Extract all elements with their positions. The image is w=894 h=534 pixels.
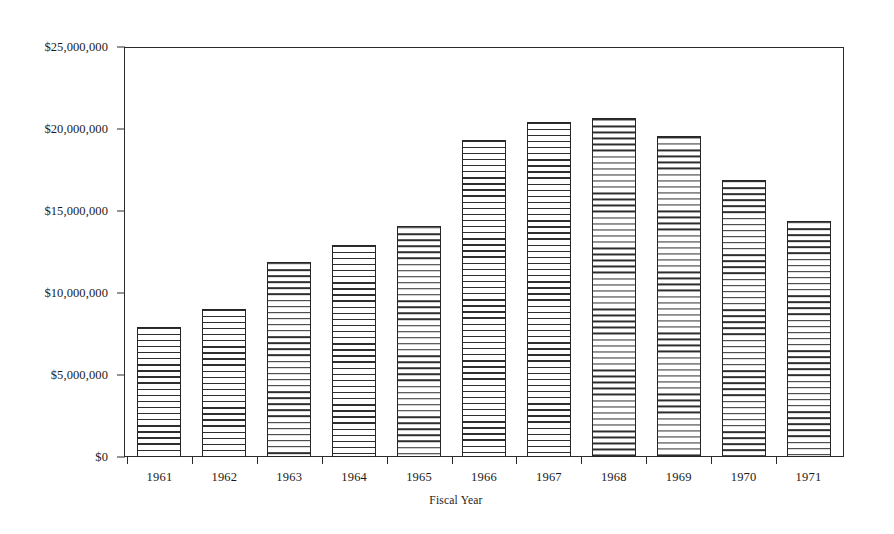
- bar-1966[interactable]: [462, 140, 506, 457]
- bar-slot: [646, 48, 711, 457]
- x-tick-slot: [516, 457, 581, 465]
- x-tick-slot: [776, 457, 841, 465]
- bar-1961[interactable]: [137, 327, 181, 457]
- bar-slot: [127, 48, 192, 457]
- x-axis-tick-label: 1969: [646, 470, 711, 485]
- x-axis-tick-label: 1971: [776, 470, 841, 485]
- x-axis-title-text: Fiscal Year: [429, 494, 482, 506]
- x-axis-tick-mark: [452, 457, 453, 464]
- x-axis-ticks: [125, 457, 843, 465]
- bar-1962[interactable]: [202, 309, 246, 457]
- x-tick-slot: [322, 457, 387, 465]
- bars-layer: [125, 48, 843, 457]
- x-axis-tick-label: 1965: [387, 470, 452, 485]
- bar-slot: [581, 48, 646, 457]
- x-axis-tick-label: 1964: [322, 470, 387, 485]
- bar-1964[interactable]: [332, 245, 376, 457]
- y-axis-tick-label: $10,000,000: [44, 287, 108, 300]
- x-axis-tick-label: 1966: [452, 470, 517, 485]
- y-axis-tick-label: $5,000,000: [51, 369, 108, 382]
- x-axis-tick-label: 1968: [581, 470, 646, 485]
- bar-slot: [516, 48, 581, 457]
- bar-1971[interactable]: [787, 221, 831, 457]
- x-axis-title: Fiscal Year: [0, 494, 894, 506]
- y-axis-tick-label: $25,000,000: [44, 41, 108, 54]
- x-axis-tick-mark: [711, 457, 712, 464]
- x-tick-slot: [127, 457, 192, 465]
- x-tick-slot: [711, 457, 776, 465]
- bar-chart: $25,000,000$20,000,000$15,000,000$10,000…: [0, 0, 894, 534]
- x-axis-tick-mark: [646, 457, 647, 464]
- x-axis-tick-label: 1970: [711, 470, 776, 485]
- x-axis-tick-label: 1967: [516, 470, 581, 485]
- y-axis-tick-label: $0: [95, 451, 108, 464]
- bar-1969[interactable]: [657, 136, 701, 457]
- x-tick-slot: [387, 457, 452, 465]
- x-axis-tick-mark: [257, 457, 258, 464]
- bar-slot: [711, 48, 776, 457]
- bar-1970[interactable]: [722, 180, 766, 457]
- x-axis-labels: 1961196219631964196519661967196819691970…: [125, 470, 843, 485]
- x-tick-slot: [646, 457, 711, 465]
- x-axis-tick-mark: [776, 457, 777, 464]
- bar-slot: [322, 48, 387, 457]
- x-axis-tick-mark: [192, 457, 193, 464]
- x-axis-tick-label: 1962: [192, 470, 257, 485]
- x-axis-tick-label: 1961: [127, 470, 192, 485]
- bar-slot: [452, 48, 517, 457]
- bar-slot: [387, 48, 452, 457]
- x-tick-slot: [452, 457, 517, 465]
- x-tick-slot: [257, 457, 322, 465]
- x-axis-tick-label: 1963: [257, 470, 322, 485]
- y-axis-tick-label: $15,000,000: [44, 205, 108, 218]
- bar-1968[interactable]: [592, 118, 636, 457]
- x-axis-tick-mark: [322, 457, 323, 464]
- x-tick-slot: [192, 457, 257, 465]
- x-tick-slot: [581, 457, 646, 465]
- x-axis-tick-mark: [127, 457, 128, 464]
- x-axis-tick-mark: [387, 457, 388, 464]
- y-axis: $25,000,000$20,000,000$15,000,000$10,000…: [0, 47, 118, 457]
- bar-slot: [192, 48, 257, 457]
- bar-slot: [776, 48, 841, 457]
- bar-slot: [257, 48, 322, 457]
- bar-1967[interactable]: [527, 122, 571, 457]
- y-axis-tick-label: $20,000,000: [44, 123, 108, 136]
- bar-1965[interactable]: [397, 226, 441, 457]
- x-axis-tick-mark: [581, 457, 582, 464]
- x-axis-tick-mark: [516, 457, 517, 464]
- bar-1963[interactable]: [267, 262, 311, 457]
